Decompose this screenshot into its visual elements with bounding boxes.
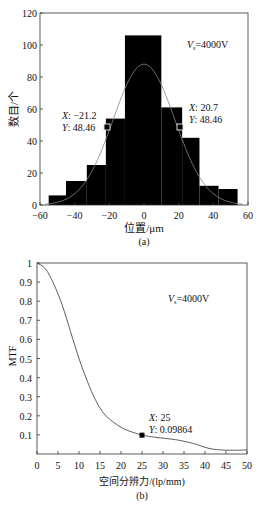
histogram-bar [125, 35, 161, 205]
y-tick-label: 40 [27, 136, 37, 147]
svg-text:X: −21.2: X: −21.2 [61, 110, 97, 121]
y-tick-label: 0.8 [20, 296, 33, 307]
annotation-voltage: Vs=4000V [187, 39, 229, 51]
svg-text:Y: 48.46: Y: 48.46 [189, 114, 222, 125]
datatip: X: 25 Y: 0.09864 [140, 412, 193, 438]
datatip-right: X: 20.7 Y: 48.46 [177, 102, 222, 130]
datatip-left: X: −21.2 Y: 48.46 [61, 110, 110, 133]
plot-frame [37, 263, 247, 454]
x-tick-label: −60 [32, 210, 48, 221]
caption-a: (a) [138, 236, 149, 248]
y-tick-label: 0.9 [20, 277, 33, 288]
svg-text:Y: 0.09864: Y: 0.09864 [149, 424, 192, 435]
datatip-marker-filled [177, 124, 183, 130]
y-tick-label: 100 [22, 40, 37, 51]
mtf-chart: 05101520253035404550 0.10.20.30.40.50.60… [0, 250, 259, 513]
x-tick-label: 60 [243, 210, 253, 221]
x-tick-label: 20 [174, 210, 184, 221]
y-tick-label: 0.1 [20, 430, 33, 441]
x-tick-label: 30 [158, 460, 168, 471]
histogram-bar [87, 165, 106, 205]
x-tick-label: 45 [221, 460, 231, 471]
mtf-curve [37, 263, 247, 450]
y-axis-label: MTF [7, 345, 18, 366]
svg-text:X: 20.7: X: 20.7 [188, 102, 218, 113]
x-tick-label: 35 [179, 460, 189, 471]
y-tick-label: 0.3 [20, 392, 33, 403]
x-tick-label: 5 [56, 460, 61, 471]
svg-text:Y: 48.46: Y: 48.46 [62, 122, 95, 133]
histogram-bar [219, 189, 238, 205]
y-tick-label: 60 [27, 104, 37, 115]
x-tick-label: 20 [116, 460, 126, 471]
y-tick-label: 1 [27, 258, 32, 269]
x-tick-label: 40 [200, 460, 210, 471]
x-axis-label: 位置/μm [124, 221, 164, 234]
y-tick-label: 0.6 [20, 334, 33, 345]
histogram-bar [161, 107, 182, 205]
x-tick-label: 50 [242, 460, 252, 471]
x-tick-label: 25 [137, 460, 147, 471]
y-tick-label: 20 [27, 168, 37, 179]
x-tick-label: 15 [95, 460, 105, 471]
x-tick-label: 40 [208, 210, 218, 221]
y-tick-label: 0.2 [20, 411, 33, 422]
histogram-chart: −60−40−200204060 020406080100120 Vs=4000… [0, 0, 259, 250]
x-tick-label: 10 [74, 460, 84, 471]
svg-text:X: 25: X: 25 [148, 412, 170, 423]
histogram-bar [182, 138, 199, 205]
y-tick-label: 0 [32, 200, 37, 211]
annotation-voltage: Vs=4000V [168, 293, 210, 305]
datatip-marker-filled [140, 433, 145, 438]
x-tick-label: 0 [142, 210, 147, 221]
y-axis-label: 数目/个 [8, 91, 20, 127]
caption-b: (b) [136, 490, 148, 502]
x-tick-label: −40 [67, 210, 83, 221]
x-axis-label: 空间分辨力/(lp/mm) [99, 475, 185, 488]
y-tick-label: 0.4 [20, 373, 33, 384]
y-tick-label: 80 [27, 72, 37, 83]
y-tick-label: 0.7 [20, 315, 33, 326]
x-tick-label: 0 [35, 460, 40, 471]
y-tick-label: 120 [22, 8, 37, 19]
x-tick-label: −20 [102, 210, 118, 221]
y-tick-label: 0.5 [20, 354, 33, 365]
datatip-marker-hollow [104, 124, 110, 130]
